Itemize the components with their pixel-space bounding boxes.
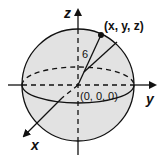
point-label: (x, y, z) bbox=[104, 19, 144, 33]
origin-label: (0, 0, 0) bbox=[80, 90, 118, 102]
y-axis-label: y bbox=[145, 91, 155, 107]
x-axis-label: x bbox=[30, 137, 40, 153]
radius-label: 6 bbox=[82, 48, 88, 60]
z-axis-label: z bbox=[63, 5, 71, 21]
sphere-diagram: z y x (x, y, z) (0, 0, 0) 6 bbox=[0, 0, 165, 161]
